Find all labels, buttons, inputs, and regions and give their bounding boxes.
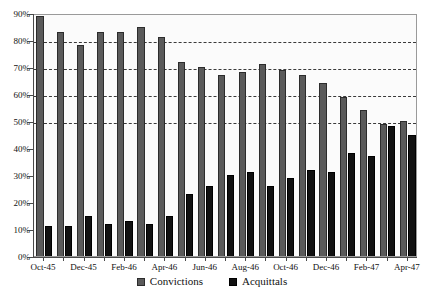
y-tick-label: 0% bbox=[0, 253, 30, 262]
bar-convictions bbox=[198, 67, 205, 256]
x-tick-mark bbox=[225, 257, 226, 261]
x-tick-mark bbox=[306, 257, 307, 261]
y-tick-label: 20% bbox=[0, 199, 30, 208]
x-tick-mark bbox=[144, 257, 145, 261]
x-tick-mark bbox=[124, 257, 125, 261]
y-tick-label: 10% bbox=[0, 226, 30, 235]
bar-convictions bbox=[400, 121, 407, 256]
legend-swatch-convictions-icon bbox=[137, 278, 145, 286]
x-tick-mark bbox=[205, 257, 206, 261]
x-tick-mark bbox=[63, 257, 64, 261]
bar-acquittals bbox=[85, 216, 92, 257]
x-tick-label: Apr-47 bbox=[382, 262, 424, 272]
bar-convictions bbox=[97, 32, 104, 256]
bar-convictions bbox=[360, 110, 367, 256]
bar-acquittals bbox=[166, 216, 173, 257]
bar-convictions bbox=[279, 70, 286, 256]
legend-label-acquittals: Acquittals bbox=[242, 276, 287, 287]
bar-acquittals bbox=[408, 135, 415, 257]
bar-acquittals bbox=[227, 175, 234, 256]
bar-acquittals bbox=[348, 153, 355, 256]
bar-chart: 0%10%20%30%40%50%60%70%80%90% Oct-45Dec-… bbox=[0, 0, 424, 297]
y-tick-label: 60% bbox=[0, 91, 30, 100]
plot-inner bbox=[34, 15, 416, 256]
bar-acquittals bbox=[247, 172, 254, 256]
gridline bbox=[34, 42, 416, 43]
x-tick-mark bbox=[326, 257, 327, 261]
y-tick-label: 80% bbox=[0, 37, 30, 46]
bar-convictions bbox=[77, 45, 84, 256]
y-tick-label: 50% bbox=[0, 118, 30, 127]
plot-area bbox=[33, 14, 417, 257]
bar-convictions bbox=[340, 97, 347, 256]
bar-acquittals bbox=[125, 221, 132, 256]
x-tick-mark bbox=[245, 257, 246, 261]
bar-acquittals bbox=[328, 172, 335, 256]
chart-legend: Convictions Acquittals bbox=[0, 276, 424, 287]
bar-convictions bbox=[319, 83, 326, 256]
y-axis-line bbox=[33, 14, 34, 257]
bar-acquittals bbox=[267, 186, 274, 256]
legend-label-convictions: Convictions bbox=[150, 276, 203, 287]
bar-acquittals bbox=[368, 156, 375, 256]
bar-convictions bbox=[117, 32, 124, 256]
x-tick-mark bbox=[346, 257, 347, 261]
bar-convictions bbox=[239, 72, 246, 256]
x-tick-mark bbox=[104, 257, 105, 261]
legend-swatch-acquittals-icon bbox=[229, 278, 237, 286]
bar-convictions bbox=[178, 62, 185, 256]
y-tick-label: 90% bbox=[0, 10, 30, 19]
bar-acquittals bbox=[287, 178, 294, 256]
bar-acquittals bbox=[105, 224, 112, 256]
bar-convictions bbox=[299, 75, 306, 256]
y-tick-label: 70% bbox=[0, 64, 30, 73]
x-tick-mark bbox=[185, 257, 186, 261]
bar-acquittals bbox=[206, 186, 213, 256]
x-tick-mark bbox=[265, 257, 266, 261]
legend-item-acquittals: Acquittals bbox=[229, 276, 287, 287]
bar-acquittals bbox=[45, 226, 52, 256]
x-tick-mark bbox=[366, 257, 367, 261]
bar-convictions bbox=[259, 64, 266, 256]
bar-convictions bbox=[218, 75, 225, 256]
bar-acquittals bbox=[388, 126, 395, 256]
bar-convictions bbox=[137, 27, 144, 257]
x-tick-mark bbox=[387, 257, 388, 261]
y-tick-label: 30% bbox=[0, 172, 30, 181]
x-tick-mark bbox=[164, 257, 165, 261]
bar-acquittals bbox=[65, 226, 72, 256]
bar-acquittals bbox=[186, 194, 193, 256]
bar-convictions bbox=[380, 124, 387, 256]
x-tick-mark bbox=[407, 257, 408, 261]
bar-acquittals bbox=[146, 224, 153, 256]
bar-convictions bbox=[158, 37, 165, 256]
x-tick-mark bbox=[84, 257, 85, 261]
x-tick-mark bbox=[43, 257, 44, 261]
bar-convictions bbox=[36, 16, 43, 256]
gridline bbox=[34, 69, 416, 70]
bar-convictions bbox=[57, 32, 64, 256]
legend-item-convictions: Convictions bbox=[137, 276, 203, 287]
bar-acquittals bbox=[307, 170, 314, 256]
y-tick-label: 40% bbox=[0, 145, 30, 154]
x-tick-mark bbox=[286, 257, 287, 261]
